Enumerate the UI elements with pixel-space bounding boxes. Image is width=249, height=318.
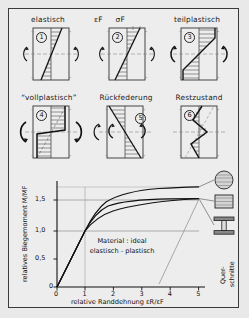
leader-rectangle (199, 199, 214, 201)
sigma-f-label: σF (116, 15, 125, 24)
material-annotation-line1: Material : ideal (87, 237, 157, 245)
panel-number-2: 2 (112, 32, 123, 43)
svg-text:+: + (107, 29, 110, 34)
svg-text:+: + (105, 107, 108, 112)
panel-3: ++ ++ 3 (169, 26, 229, 84)
svg-text:+: + (179, 153, 182, 158)
panel-title-3: teilplastisch (161, 15, 233, 24)
panel-2-annotation: εF σF (94, 15, 160, 24)
svg-text:+: + (105, 153, 108, 158)
panel-number-4: 4 (36, 110, 47, 121)
panel-title-6: Restzustand (163, 93, 235, 102)
x-tick-1: 1 (83, 290, 87, 298)
y-tick-1.5: 1,5 (35, 195, 45, 203)
cross-section-rectangle-icon (215, 195, 233, 208)
y-axis-label: relatives Biegemoment M/MF (21, 186, 29, 282)
y-tick-1.0: 1,0 (35, 226, 45, 234)
panel-title-4: “vollplastisch” (11, 93, 87, 102)
svg-text:+: + (31, 153, 34, 158)
legend-label-line1: Quer- (219, 266, 227, 284)
material-annotation-line2: elastisch - plastisch (81, 247, 163, 255)
x-tick-5: 5 (196, 290, 200, 298)
x-tick-2: 2 (111, 290, 115, 298)
leader-i-beam (199, 199, 214, 225)
svg-text:+: + (179, 29, 182, 34)
panel-number-6: 6 (184, 110, 195, 121)
panel-number-5: 5 (135, 113, 146, 124)
svg-text:+: + (216, 29, 219, 34)
svg-text:+: + (142, 153, 145, 158)
x-tick-3: 3 (139, 290, 143, 298)
moment-curvature-chart: 1,5 1,0 0,5 0 0 1 2 3 4 5 relative Randd… (9, 169, 240, 307)
svg-text:+: + (216, 107, 219, 112)
panel-title-5: Rückfederung (88, 93, 164, 102)
svg-text:+: + (68, 75, 71, 80)
svg-text:+: + (144, 75, 147, 80)
svg-text:+: + (31, 107, 34, 112)
legend-label-line2: schnitte (228, 261, 236, 287)
svg-text:+: + (216, 153, 219, 158)
svg-text:+: + (142, 107, 145, 112)
svg-text:+: + (216, 75, 219, 80)
epsilon-f-label: εF (94, 15, 103, 24)
panel-6: ++ ++ 6 (169, 104, 229, 162)
panel-5: ++ ++ 5 (95, 104, 155, 162)
svg-text:+: + (31, 29, 34, 34)
panel-4: ++ ++ 4 (21, 104, 81, 162)
svg-text:+: + (31, 75, 34, 80)
panel-number-1: 1 (36, 32, 47, 43)
cross-section-circle-icon (215, 171, 233, 189)
y-tick-0.5: 0,5 (35, 254, 45, 262)
svg-text:+: + (68, 29, 71, 34)
x-axis-label: relative Randdehnung εR/εF (71, 298, 164, 306)
figure-frame: elastisch teilplastisch εF σF (8, 8, 239, 308)
cross-section-i-beam-icon (214, 217, 234, 234)
panel-2: ++ ++ 2 (97, 26, 157, 84)
y-tick-0: 0 (49, 282, 53, 290)
svg-text:+: + (68, 153, 71, 158)
leader-circle (199, 180, 214, 187)
leader-annotation (159, 199, 199, 284)
panel-number-3: 3 (184, 32, 195, 43)
x-tick-4: 4 (168, 290, 172, 298)
panel-1: ++ ++ 1 (21, 26, 81, 84)
x-tick-0: 0 (54, 290, 58, 298)
svg-text:+: + (144, 29, 147, 34)
svg-text:+: + (179, 107, 182, 112)
panel-title-1: elastisch (15, 15, 81, 24)
svg-text:+: + (179, 75, 182, 80)
svg-text:+: + (68, 107, 71, 112)
svg-text:+: + (107, 75, 110, 80)
